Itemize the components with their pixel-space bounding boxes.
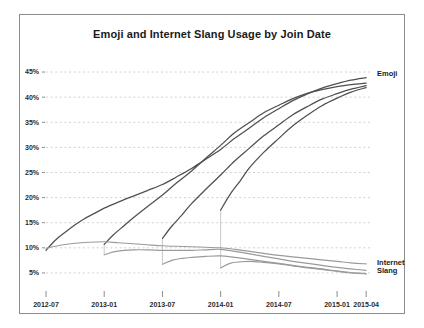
y-axis-ticks-group: 45%40%35%30%25%20%15%10%5% [25,68,45,276]
x-tick-label: 2015-04 [353,301,379,308]
series-line-internet-slang [46,242,366,264]
y-tick-label: 30% [25,144,40,151]
x-tick-label: 2014-07 [266,301,292,308]
y-tick-label: 10% [25,244,40,251]
series-label-emoji: Emoji [377,69,397,78]
y-tick-label: 35% [25,119,40,126]
series-labels-group: EmojiInternetSlang [377,69,405,275]
chart-plot-area: 45%40%35%30%25%20%15%10%5% 2012-072013-0… [0,0,424,328]
y-tick-label: 25% [25,169,40,176]
y-tick-label: 45% [25,68,40,75]
cohort-drop-lines-group [104,210,220,268]
chart-container: Emoji and Internet Slang Usage by Join D… [0,0,424,328]
x-tick-label: 2013-01 [91,301,117,308]
x-tick-label: 2015-01 [324,301,350,308]
x-tick-label: 2013-07 [150,301,176,308]
x-tick-label: 2014-01 [208,301,234,308]
y-tick-label: 15% [25,219,40,226]
x-axis-ticks-group: 2012-072013-012013-072014-012014-072015-… [33,291,379,308]
series-line-emoji [46,78,366,251]
series-line-emoji [162,86,366,239]
series-line-emoji [104,83,366,244]
series-line-emoji [221,88,367,211]
gridlines-group [46,72,372,273]
series-line-internet-slang [221,261,367,274]
data-series-group [46,78,366,274]
y-tick-label: 5% [29,269,40,276]
series-label-slang: Slang [377,266,398,275]
x-tick-label: 2012-07 [33,301,59,308]
y-tick-label: 20% [25,194,40,201]
y-tick-label: 40% [25,94,40,101]
